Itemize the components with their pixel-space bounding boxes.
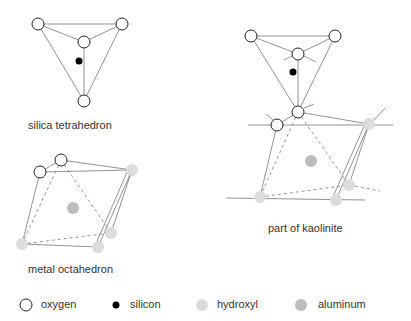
legend-silicon-label: silicon bbox=[130, 298, 161, 310]
diagram: silica tetrahedron metal octahedron part… bbox=[0, 0, 411, 321]
kaolinite-aluminum bbox=[305, 155, 317, 167]
aluminum-atom bbox=[67, 202, 79, 214]
octahedron-label: metal octahedron bbox=[28, 263, 113, 275]
hydroxyl-legend-icon bbox=[196, 299, 208, 311]
legend-hydroxyl-label: hydroxyl bbox=[217, 298, 258, 310]
legend-oxygen-label: oxygen bbox=[41, 298, 76, 310]
kaolinite-label: part of kaolinite bbox=[268, 222, 343, 234]
silicon-atom bbox=[76, 58, 83, 65]
kaolinite-tetrahedron bbox=[251, 36, 385, 120]
aluminum-legend-icon bbox=[295, 299, 307, 311]
tetrahedron-label: silica tetrahedron bbox=[28, 119, 112, 131]
legend-aluminum-label: aluminum bbox=[318, 298, 366, 310]
kaolinite-oxygens bbox=[245, 30, 341, 131]
silicon-legend-icon bbox=[113, 302, 120, 309]
kaolinite-silicon bbox=[290, 69, 297, 76]
oxygen-legend-icon bbox=[20, 299, 32, 311]
